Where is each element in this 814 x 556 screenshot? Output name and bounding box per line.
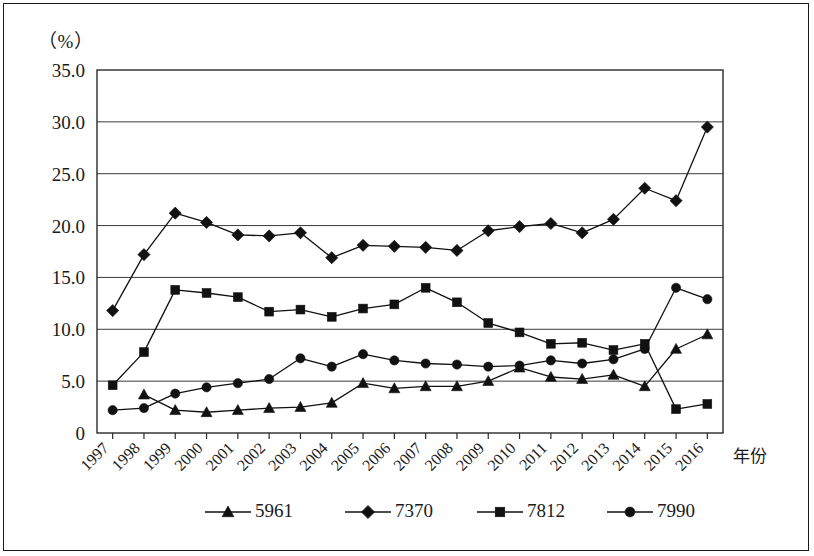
data-point-7370-2016 <box>701 121 713 133</box>
x-tick-label: 2010 <box>484 439 519 474</box>
x-tick-label: 2015 <box>641 439 676 474</box>
data-point-7812-1999 <box>171 285 180 294</box>
line-chart: 05.010.015.020.025.030.035.0 19971998199… <box>0 0 814 556</box>
data-point-7812-2016 <box>703 400 712 409</box>
data-point-5961-2009 <box>483 376 494 386</box>
chart-legend: 5961737078127990 <box>205 500 695 521</box>
data-point-7370-2001 <box>232 229 244 241</box>
data-point-7990-2012 <box>578 359 587 368</box>
data-point-7812-2002 <box>265 307 274 316</box>
y-tick-label: 30.0 <box>52 112 85 133</box>
x-tick-label: 2013 <box>578 439 613 474</box>
data-point-7812-1997 <box>108 381 117 390</box>
x-tick-label: 1999 <box>140 439 175 474</box>
data-point-5961-1998 <box>138 389 149 399</box>
y-tick-label: 0 <box>76 423 86 444</box>
data-point-5961-2004 <box>326 397 337 407</box>
series-markers-group <box>107 121 714 417</box>
x-tick-label: 2003 <box>265 439 300 474</box>
data-point-7370-2011 <box>545 217 557 229</box>
legend-item-7990: 7990 <box>607 500 695 521</box>
x-tick-label: 2004 <box>296 439 331 474</box>
data-point-7812-2010 <box>515 328 524 337</box>
data-point-7812-2009 <box>484 319 493 328</box>
legend-marker-square-icon <box>495 507 505 517</box>
legend-item-7812: 7812 <box>477 500 565 521</box>
y-axis-tick-labels: 05.010.015.020.025.030.035.0 <box>52 60 85 444</box>
data-point-7812-1998 <box>140 348 149 357</box>
y-tick-label: 15.0 <box>52 267 85 288</box>
x-axis-tick-labels: 1997199819992000200120022003200420052006… <box>77 439 706 474</box>
data-point-7812-2006 <box>390 300 399 309</box>
x-tick-label: 2000 <box>171 439 206 474</box>
data-point-7990-2007 <box>421 359 430 368</box>
gridlines-group <box>97 122 723 381</box>
y-tick-label: 5.0 <box>61 371 85 392</box>
data-point-5961-2005 <box>358 378 369 388</box>
data-point-7370-2006 <box>388 240 400 252</box>
x-tick-label: 2009 <box>453 439 488 474</box>
data-point-7812-2005 <box>359 304 368 313</box>
data-point-7812-2008 <box>453 298 462 307</box>
data-point-7370-2007 <box>420 241 432 253</box>
data-point-7812-2000 <box>202 289 211 298</box>
data-point-7990-2000 <box>202 383 211 392</box>
data-point-7370-2000 <box>200 216 212 228</box>
data-point-5961-2016 <box>702 329 713 339</box>
data-point-5961-2013 <box>608 369 619 379</box>
data-point-7990-2003 <box>296 354 305 363</box>
data-point-7812-2013 <box>609 346 618 355</box>
chart-figure: （%） 05.010.015.020.025.030.035.0 1997199… <box>0 0 814 556</box>
data-point-7370-2003 <box>294 227 306 239</box>
data-point-7812-2012 <box>578 338 587 347</box>
data-point-7812-2007 <box>421 283 430 292</box>
data-point-7370-2002 <box>263 230 275 242</box>
data-point-7370-2012 <box>576 227 588 239</box>
data-point-7812-2004 <box>327 312 336 321</box>
data-point-7812-2011 <box>546 339 555 348</box>
y-tick-label: 20.0 <box>52 216 85 237</box>
legend-marker-diamond-icon <box>361 505 374 518</box>
series-lines-group <box>113 127 708 412</box>
data-point-7990-1998 <box>139 404 148 413</box>
data-point-7990-2002 <box>265 374 274 383</box>
legend-marker-circle-icon <box>625 507 635 517</box>
x-tick-label: 2014 <box>609 439 644 474</box>
data-point-7812-2003 <box>296 305 305 314</box>
data-point-7990-2008 <box>452 360 461 369</box>
y-tick-label: 35.0 <box>52 60 85 81</box>
x-tick-label: 2005 <box>328 439 363 474</box>
legend-marker-triangle-icon <box>222 506 234 517</box>
data-point-7990-2004 <box>327 362 336 371</box>
y-tick-label: 10.0 <box>52 319 85 340</box>
x-tick-label: 2001 <box>202 439 237 474</box>
x-tick-label: 2006 <box>359 439 394 474</box>
legend-label: 7370 <box>395 500 433 521</box>
x-tick-label: 2012 <box>547 439 582 474</box>
series-line-5961 <box>144 334 707 412</box>
legend-label: 7990 <box>657 500 695 521</box>
x-axis-title: 年份 <box>733 447 767 466</box>
data-point-7370-1999 <box>169 207 181 219</box>
data-point-7990-2013 <box>609 355 618 364</box>
legend-item-7370: 7370 <box>345 500 433 521</box>
data-point-7990-2006 <box>390 356 399 365</box>
data-point-7370-2010 <box>513 221 525 233</box>
data-point-7370-2009 <box>482 225 494 237</box>
x-tick-label: 2007 <box>390 439 425 474</box>
data-point-7370-1998 <box>138 249 150 261</box>
data-point-7812-2001 <box>233 293 242 302</box>
x-axis-tick-marks <box>113 433 708 439</box>
data-point-5961-2015 <box>671 343 682 353</box>
data-point-7370-2008 <box>451 244 463 256</box>
data-point-7990-2011 <box>546 356 555 365</box>
legend-label: 7812 <box>527 500 565 521</box>
x-tick-label: 2002 <box>234 439 269 474</box>
data-point-7990-1999 <box>171 389 180 398</box>
data-point-7370-1997 <box>107 305 119 317</box>
data-point-5961-1999 <box>170 405 181 415</box>
legend-item-5961: 5961 <box>205 500 293 521</box>
data-point-7990-2005 <box>358 350 367 359</box>
y-tick-label: 25.0 <box>52 164 85 185</box>
data-point-7990-2010 <box>515 361 524 370</box>
